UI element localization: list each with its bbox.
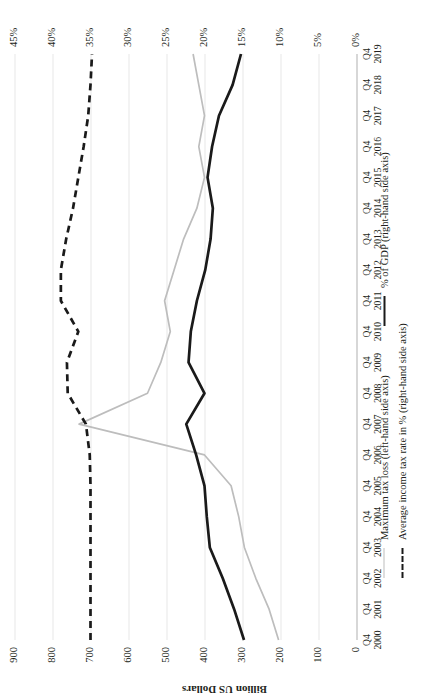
y2-axis-tick-label: 30%	[123, 28, 134, 47]
legend-item-label: Maximum tax loss (left-hand side axis)	[378, 375, 389, 540]
y2-axis-tick-label: 0%	[351, 33, 362, 47]
legend-swatch-dashed-black-icon	[401, 548, 403, 578]
y-axis-tick-label: 0	[351, 647, 362, 652]
y-axis-tick-label: 100	[313, 647, 324, 663]
y2-axis-tick-label: 40%	[47, 28, 58, 47]
series-line	[60, 54, 91, 640]
y-axis-tick-label: 900	[9, 647, 20, 663]
plot-area: 00%1005%20010%30015%40020%50025%60030%70…	[14, 54, 356, 640]
x-axis-year-label: 2019	[372, 33, 383, 75]
x-axis-tick-label: Q42019	[361, 33, 382, 75]
y2-axis-tick-label: 15%	[237, 28, 248, 47]
rotated-chart-wrapper: Billion US Dollars 00%1005%20010%30015%4…	[0, 0, 447, 698]
y-axis-tick-label: 200	[275, 647, 286, 663]
series-line	[79, 54, 279, 640]
y2-axis-tick-label: 35%	[85, 28, 96, 47]
legend-right-column: % of GDP (right-hand side axis)	[378, 152, 396, 326]
y-axis-tick-label: 800	[47, 647, 58, 663]
y2-axis-tick-label: 5%	[313, 33, 324, 47]
legend-item-label: % of GDP (right-hand side axis)	[378, 152, 389, 288]
y-axis-title: Billion US Dollars	[181, 684, 266, 696]
chart-canvas: Billion US Dollars 00%1005%20010%30015%4…	[0, 0, 447, 698]
y-axis-tick-label: 600	[123, 647, 134, 663]
legend-swatch-solid-black-icon	[383, 296, 385, 326]
y-axis-tick-label: 300	[237, 647, 248, 663]
y-axis-tick-label: 700	[85, 647, 96, 663]
legend-swatch-solid-grey-icon	[383, 548, 384, 578]
y2-axis-tick-label: 45%	[9, 28, 20, 47]
legend-item-label: Average income tax rate in % (right-hand…	[396, 323, 407, 540]
series-line	[186, 54, 244, 640]
y-axis-tick-label: 500	[161, 647, 172, 663]
y-axis-tick-label: 400	[199, 647, 210, 663]
y2-axis-tick-label: 20%	[199, 28, 210, 47]
legend-left-column: Maximum tax loss (left-hand side axis)Av…	[378, 323, 414, 578]
legend-item[interactable]: Maximum tax loss (left-hand side axis)	[378, 323, 389, 578]
y2-axis-tick-label: 10%	[275, 28, 286, 47]
series-layer	[14, 54, 356, 640]
x-axis-quarter-label: Q4	[361, 33, 372, 75]
y2-axis-tick-label: 25%	[161, 28, 172, 47]
legend-item[interactable]: % of GDP (right-hand side axis)	[378, 152, 389, 326]
legend-item[interactable]: Average income tax rate in % (right-hand…	[396, 323, 407, 578]
